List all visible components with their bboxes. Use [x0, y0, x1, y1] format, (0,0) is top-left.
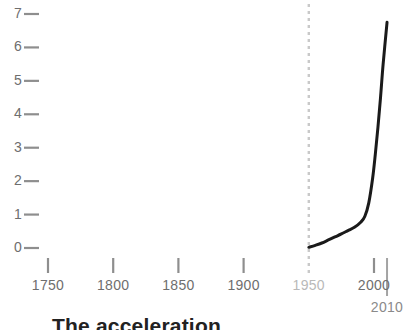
y-axis-tick-label: 4 — [0, 106, 22, 120]
y-axis-tick-marks — [24, 14, 39, 248]
x-axis-tick-label: 1750 — [18, 278, 78, 292]
x-axis-tick-label: 1950 — [279, 278, 339, 292]
chart-title-clipped: The acceleration — [0, 318, 412, 330]
data-series-line — [309, 22, 387, 247]
x-axis-tick-label: 1900 — [214, 278, 274, 292]
chart-container: 01234567 175018001850190019502000 2010 T… — [0, 0, 412, 330]
y-axis-tick-label: 7 — [0, 6, 22, 20]
chart-title: The acceleration — [52, 318, 221, 330]
x-axis-tick-label: 1800 — [83, 278, 143, 292]
y-axis-tick-label: 2 — [0, 173, 22, 187]
y-axis-tick-label: 0 — [0, 240, 22, 254]
x-axis-end-tick-label: 2010 — [357, 300, 412, 314]
x-axis-tick-label: 1850 — [148, 278, 208, 292]
y-axis-tick-label: 5 — [0, 73, 22, 87]
y-axis-tick-label: 6 — [0, 39, 22, 53]
x-axis-tick-label: 2000 — [344, 278, 404, 292]
x-axis-tick-marks — [48, 258, 374, 273]
y-axis-tick-label: 1 — [0, 207, 22, 221]
y-axis-tick-label: 3 — [0, 140, 22, 154]
